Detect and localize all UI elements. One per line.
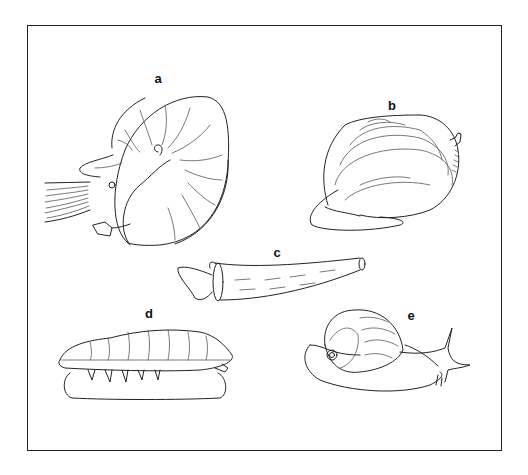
mollusc-illustrations bbox=[0, 0, 528, 475]
chiton-illustration bbox=[59, 330, 233, 400]
snail-illustration bbox=[305, 310, 470, 391]
nautilus-illustration bbox=[45, 97, 229, 246]
clam-illustration bbox=[310, 115, 461, 230]
tusk-shell-illustration bbox=[178, 258, 365, 301]
